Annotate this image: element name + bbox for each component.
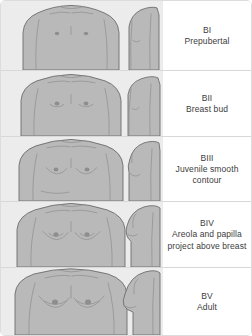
label-cell-stage-3: BIII Juvenile smooth contour bbox=[163, 137, 251, 201]
illustration-cell-stage-2 bbox=[1, 71, 163, 136]
tanner-stage-chart: BI Prepubertal bbox=[0, 0, 252, 336]
stage-code: BIII bbox=[200, 152, 213, 164]
stage-code: BII bbox=[202, 92, 213, 104]
stage-code: BV bbox=[201, 290, 213, 302]
illustration-cell-stage-5 bbox=[1, 268, 163, 335]
stage-row: BII Breast bud bbox=[1, 71, 251, 137]
stage-row: BIV Areola and papilla project above bre… bbox=[1, 202, 251, 268]
torso-illustration-stage-5 bbox=[1, 268, 163, 335]
torso-illustration-stage-4 bbox=[1, 202, 163, 267]
illustration-cell-stage-1 bbox=[1, 1, 163, 70]
label-cell-stage-5: BV Adult bbox=[163, 268, 251, 335]
stage-row: BV Adult bbox=[1, 268, 251, 335]
stage-code: BIV bbox=[200, 217, 214, 229]
label-cell-stage-1: BI Prepubertal bbox=[163, 1, 251, 70]
label-cell-stage-2: BII Breast bud bbox=[163, 71, 251, 136]
stage-description: Adult bbox=[197, 302, 217, 314]
stage-description: Prepubertal bbox=[184, 36, 229, 48]
label-cell-stage-4: BIV Areola and papilla project above bre… bbox=[163, 202, 251, 267]
stage-description: Juvenile smooth contour bbox=[167, 164, 247, 187]
torso-illustration-stage-3 bbox=[1, 137, 163, 201]
stage-row: BI Prepubertal bbox=[1, 1, 251, 71]
stage-description: Areola and papilla project above breast bbox=[167, 229, 247, 252]
stage-code: BI bbox=[203, 24, 211, 36]
torso-illustration-stage-1 bbox=[1, 1, 163, 70]
illustration-cell-stage-4 bbox=[1, 202, 163, 267]
stage-row: BIII Juvenile smooth contour bbox=[1, 137, 251, 202]
illustration-cell-stage-3 bbox=[1, 137, 163, 201]
torso-illustration-stage-2 bbox=[1, 71, 163, 136]
stage-description: Breast bud bbox=[186, 104, 228, 116]
